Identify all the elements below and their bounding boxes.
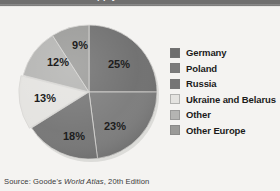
pie-slice-label-0: 25% bbox=[108, 58, 130, 70]
legend-label-5: Other Europe bbox=[186, 125, 246, 136]
pie-slice-label-5: 9% bbox=[72, 39, 88, 51]
legend-swatch-poland bbox=[170, 63, 180, 73]
legend-label-1: Poland bbox=[186, 63, 217, 74]
legend-item-2[interactable]: Russia bbox=[170, 76, 278, 92]
figure-titlebar-text: Percent of world supply bbox=[6, 0, 117, 1]
legend-label-3: Ukraine and Belarus bbox=[186, 94, 276, 105]
legend-item-5[interactable]: Other Europe bbox=[170, 123, 278, 139]
source-prefix: Source: Goode's bbox=[4, 177, 64, 186]
legend-label-2: Russia bbox=[186, 78, 217, 89]
legend-item-0[interactable]: Germany bbox=[170, 45, 278, 61]
source-title-italic: World Atlas bbox=[64, 177, 104, 186]
legend-label-0: Germany bbox=[186, 47, 227, 58]
pie-slice-label-1: 23% bbox=[104, 120, 126, 132]
legend-swatch-russia bbox=[170, 79, 180, 89]
legend-item-1[interactable]: Poland bbox=[170, 61, 278, 77]
titlebar-fade bbox=[0, 4, 280, 7]
legend-item-3[interactable]: Ukraine and Belarus bbox=[170, 92, 278, 108]
pie-slice-label-3: 13% bbox=[34, 92, 56, 104]
pie-chart: 25%23%18%13%12%9% bbox=[16, 19, 162, 165]
legend: GermanyPolandRussiaUkraine and BelarusOt… bbox=[170, 45, 278, 138]
pie-chart-svg: 25%23%18%13%12%9% bbox=[16, 19, 162, 165]
source-note: Source: Goode's World Atlas, 20th Editio… bbox=[4, 177, 149, 186]
pie-slice-label-2: 18% bbox=[63, 130, 85, 142]
legend-swatch-other-europe bbox=[170, 125, 180, 135]
pie-slice-label-4: 12% bbox=[47, 56, 69, 68]
legend-item-4[interactable]: Other bbox=[170, 107, 278, 123]
source-suffix: , 20th Edition bbox=[104, 177, 150, 186]
legend-label-4: Other bbox=[186, 109, 211, 120]
legend-swatch-ukraine-belarus bbox=[170, 94, 180, 104]
legend-swatch-other bbox=[170, 110, 180, 120]
legend-swatch-germany bbox=[170, 48, 180, 58]
pie-chart-figure: Percent of world supply 25%23%18%13%12%9… bbox=[0, 0, 280, 191]
